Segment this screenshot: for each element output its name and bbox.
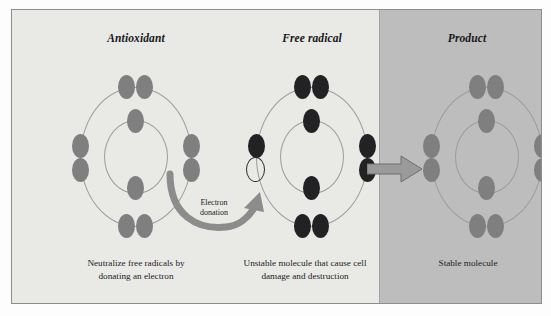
panel-title-product: Product — [407, 32, 527, 44]
electron-outer-top-left — [294, 75, 311, 99]
caption-free-radical-line1: Unstable molecule that cause cell — [207, 257, 403, 270]
electron-outer-bottom-left — [469, 214, 486, 238]
block-transition-arrow — [367, 155, 423, 183]
electron-outer-left-upper — [423, 134, 440, 158]
donation-label-line2: donation — [183, 208, 245, 218]
donation-label: Electron donation — [183, 198, 245, 217]
electron-outer-left-upper — [248, 134, 265, 158]
caption-product: Stable molecule — [407, 257, 529, 270]
electron-outer-left-upper — [72, 134, 89, 158]
electron-outer-right-upper — [183, 134, 200, 158]
caption-antioxidant-line2: donating an electron — [46, 270, 226, 283]
electron-outer-top-left — [118, 75, 135, 99]
electron-outer-bottom-left — [294, 214, 311, 238]
caption-product-line1: Stable molecule — [407, 257, 529, 270]
electron-inner-bottom — [478, 176, 495, 200]
electron-inner-bottom — [303, 176, 320, 200]
electron-outer-top-left — [469, 75, 486, 99]
molecule-product — [417, 82, 542, 232]
caption-antioxidant-line1: Neutralize free radicals by — [46, 257, 226, 270]
electron-outer-bottom-right — [487, 214, 504, 238]
electron-outer-top-right — [136, 75, 153, 99]
electron-outer-bottom-left — [118, 214, 135, 238]
figure-root: Antioxidant Free radical Product — [0, 0, 551, 316]
caption-free-radical-line2: damage and destruction — [207, 270, 403, 283]
donation-label-line1: Electron — [183, 198, 245, 208]
electron-inner-top — [127, 109, 144, 133]
electron-outer-top-right — [487, 75, 504, 99]
electron-outer-top-right — [312, 75, 329, 99]
electron-outer-bottom-right — [136, 214, 153, 238]
caption-antioxidant: Neutralize free radicals by donating an … — [46, 257, 226, 283]
caption-free-radical: Unstable molecule that cause cell damage… — [207, 257, 403, 283]
electron-outer-left-lower — [423, 158, 440, 182]
electron-inner-bottom — [127, 176, 144, 200]
diagram-panel-frame: Antioxidant Free radical Product — [11, 9, 542, 304]
electron-outer-left-lower — [72, 158, 89, 182]
panel-title-free-radical: Free radical — [232, 32, 392, 44]
panel-title-antioxidant: Antioxidant — [56, 32, 216, 44]
electron-inner-top — [303, 109, 320, 133]
electron-outer-bottom-right — [312, 214, 329, 238]
electron-inner-top — [478, 109, 495, 133]
